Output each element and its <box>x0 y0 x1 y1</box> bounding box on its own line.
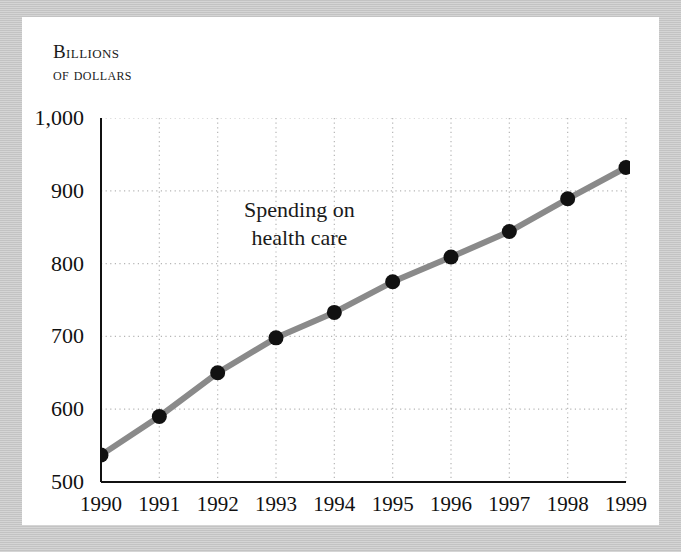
x-axis-tick-label: 1994 <box>313 492 355 517</box>
series-annotation-line-2: health care <box>244 224 355 252</box>
series-annotation: Spending on health care <box>244 195 355 251</box>
x-axis-tick-label: 1999 <box>605 492 647 517</box>
y-axis-title-line-1: Billions <box>53 39 132 64</box>
y-axis-title-line-2: of dollars <box>53 64 132 86</box>
x-axis-tick-label: 1992 <box>197 492 239 517</box>
x-axis-tick-label: 1998 <box>547 492 589 517</box>
plot-area: 5006007008009001,000 1990199119921993199… <box>100 118 630 484</box>
chart-canvas <box>100 118 630 484</box>
x-axis-tick-label: 1996 <box>430 492 472 517</box>
y-axis-tick-label: 1,000 <box>35 105 85 131</box>
x-axis-tick-label: 1993 <box>255 492 297 517</box>
y-axis-tick-label: 700 <box>51 323 84 349</box>
y-axis-tick-label: 800 <box>51 251 84 277</box>
y-axis-tick-label: 900 <box>51 178 84 204</box>
figure-frame: Billions of dollars 5006007008009001,000… <box>0 0 681 552</box>
series-annotation-line-1: Spending on <box>244 195 355 223</box>
x-axis-tick-label: 1995 <box>372 492 414 517</box>
x-axis-tick-label: 1990 <box>80 492 122 517</box>
y-axis-title: Billions of dollars <box>53 39 132 87</box>
chart-card: Billions of dollars 5006007008009001,000… <box>22 17 659 525</box>
x-axis-tick-label: 1997 <box>488 492 530 517</box>
x-axis-tick-label: 1991 <box>138 492 180 517</box>
y-axis-tick-label: 600 <box>51 396 84 422</box>
